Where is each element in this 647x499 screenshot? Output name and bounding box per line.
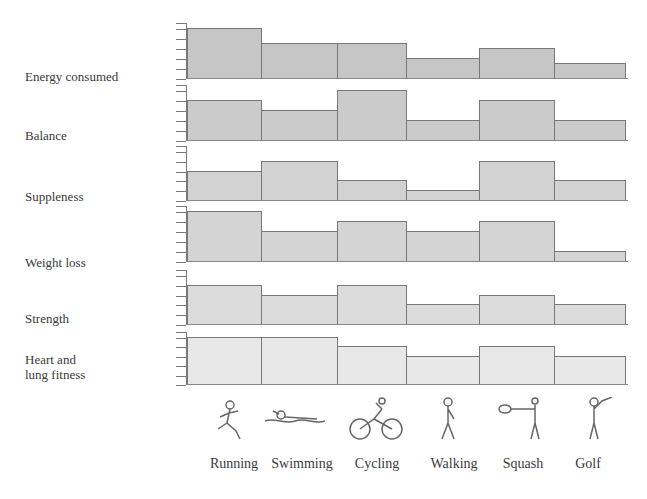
y-tick: [176, 206, 186, 207]
y-tick: [176, 162, 186, 163]
y-tick: [176, 357, 186, 358]
y-tick: [176, 305, 186, 306]
y-tick: [176, 141, 186, 142]
bar-golf: [554, 356, 626, 385]
y-tick: [176, 69, 186, 70]
bar-squash: [479, 221, 555, 262]
bar-swimming: [261, 161, 338, 201]
y-tick: [176, 212, 186, 213]
bar-running: [187, 285, 262, 325]
bar-cycling: [337, 346, 407, 385]
bar-cycling: [337, 221, 407, 262]
row-label: Heart andlung fitness: [25, 352, 85, 382]
y-tick: [176, 252, 186, 253]
bar-golf: [554, 180, 626, 201]
y-tick: [176, 172, 186, 173]
y-tick: [176, 191, 186, 192]
bar-walking: [406, 356, 480, 385]
y-tick: [176, 23, 186, 24]
y-tick: [176, 296, 186, 297]
row-label: Energy consumed: [25, 69, 118, 84]
bar-cycling: [337, 43, 407, 79]
y-tick: [176, 146, 186, 147]
x-axis-baseline: [186, 140, 628, 141]
panel-strength: [176, 270, 628, 325]
y-tick: [176, 347, 186, 348]
squash-figure-icon: [495, 397, 555, 442]
y-tick: [176, 181, 186, 182]
y-tick: [176, 325, 186, 326]
y-tick: [176, 91, 186, 92]
y-tick: [176, 376, 186, 377]
bar-swimming: [261, 295, 338, 325]
panel-heart-and-lung-fitness: [176, 332, 628, 385]
bar-running: [187, 337, 262, 385]
row-label-line: Heart and: [25, 352, 85, 367]
panel-suppleness: [176, 146, 628, 201]
y-tick: [176, 262, 186, 263]
y-tick: [176, 111, 186, 112]
running-figure-icon: [200, 397, 260, 442]
y-tick: [176, 315, 186, 316]
bar-squash: [479, 295, 555, 325]
bar-running: [187, 100, 262, 141]
y-tick: [176, 286, 186, 287]
y-tick: [176, 152, 186, 153]
bar-walking: [406, 231, 480, 262]
y-tick: [176, 59, 186, 60]
bar-walking: [406, 304, 480, 325]
panel-energy-consumed: [176, 23, 628, 79]
row-label-line: Suppleness: [25, 189, 84, 204]
row-label-line: lung fitness: [25, 367, 85, 382]
bar-golf: [554, 63, 626, 79]
bar-squash: [479, 100, 555, 141]
x-label-swimming: Swimming: [262, 456, 342, 472]
y-tick: [176, 201, 186, 202]
panel-balance: [176, 85, 628, 141]
y-tick: [176, 121, 186, 122]
bar-golf: [554, 304, 626, 325]
y-tick: [176, 222, 186, 223]
row-label: Weight loss: [25, 255, 86, 270]
x-label-golf: Golf: [548, 456, 628, 472]
bar-cycling: [337, 90, 407, 141]
y-tick: [176, 39, 186, 40]
bar-running: [187, 28, 262, 79]
y-tick: [176, 270, 186, 271]
y-tick: [176, 338, 186, 339]
row-label-line: Energy consumed: [25, 69, 118, 84]
row-label-line: Balance: [25, 128, 67, 143]
bar-walking: [406, 58, 480, 79]
bar-squash: [479, 48, 555, 79]
y-tick: [176, 232, 186, 233]
panel-weight-loss: [176, 206, 628, 262]
swimming-figure-icon: [265, 397, 325, 442]
row-label: Balance: [25, 128, 67, 143]
bar-swimming: [261, 231, 338, 262]
bar-swimming: [261, 43, 338, 79]
golf-figure-icon: [566, 397, 626, 442]
row-label-line: Strength: [25, 311, 69, 326]
bar-squash: [479, 161, 555, 201]
row-label-line: Weight loss: [25, 255, 86, 270]
x-axis-baseline: [186, 384, 628, 385]
bar-swimming: [261, 337, 338, 385]
walking-figure-icon: [418, 397, 478, 442]
x-axis-baseline: [186, 324, 628, 325]
x-axis-baseline: [186, 200, 628, 201]
x-axis-baseline: [186, 78, 628, 79]
y-tick: [176, 49, 186, 50]
y-tick: [176, 366, 186, 367]
y-tick: [176, 276, 186, 277]
x-axis-baseline: [186, 261, 628, 262]
bar-cycling: [337, 180, 407, 201]
y-tick: [176, 79, 186, 80]
row-label: Suppleness: [25, 189, 84, 204]
y-tick: [176, 385, 186, 386]
bar-swimming: [261, 110, 338, 141]
bar-cycling: [337, 285, 407, 325]
x-label-cycling: Cycling: [337, 456, 417, 472]
bar-walking: [406, 120, 480, 141]
y-tick: [176, 101, 186, 102]
y-tick: [176, 85, 186, 86]
